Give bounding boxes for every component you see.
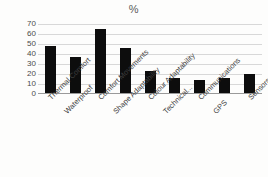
y-axis-tick-label: 10: [14, 80, 36, 88]
bar: [95, 29, 106, 93]
y-axis-tick-label: 0: [14, 90, 36, 98]
y-axis-tick-label: 50: [14, 40, 36, 48]
x-axis-labels: Thermal ComfortWaterproofComfort Movemen…: [38, 96, 268, 177]
plot-area: [38, 24, 262, 94]
y-axis-tick-label: 60: [14, 30, 36, 38]
y-axis-tick-label: 30: [14, 60, 36, 68]
x-axis-tick-label: GPS: [212, 99, 229, 116]
y-axis-tick-label: 70: [14, 20, 36, 28]
y-axis-tick-label: 20: [14, 70, 36, 78]
chart-title: %: [0, 3, 268, 15]
y-axis: 010203040506070: [14, 24, 36, 94]
y-axis-tick-label: 40: [14, 50, 36, 58]
bar-chart: % 010203040506070 Thermal ComfortWaterpr…: [0, 0, 268, 177]
